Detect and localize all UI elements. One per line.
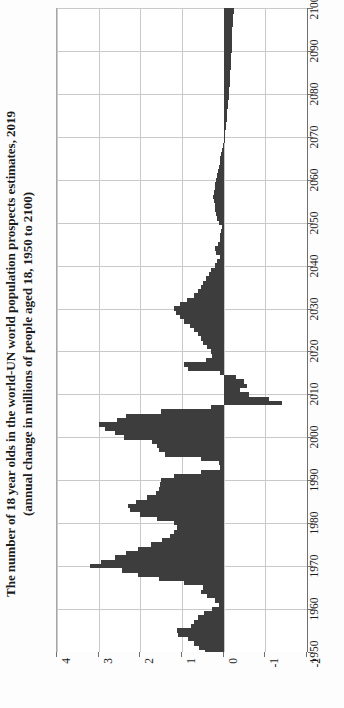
bar bbox=[160, 482, 223, 486]
bar bbox=[224, 49, 232, 53]
bar bbox=[222, 225, 224, 229]
bar bbox=[218, 242, 224, 246]
value-tick bbox=[56, 652, 57, 657]
chart-canvas: The number of 18 year olds in the world-… bbox=[0, 0, 344, 708]
bar bbox=[224, 100, 229, 104]
bar bbox=[217, 173, 224, 177]
bar bbox=[224, 384, 247, 388]
bar bbox=[214, 199, 224, 203]
bar bbox=[224, 44, 232, 48]
value-tick bbox=[139, 652, 140, 657]
bar bbox=[224, 79, 230, 83]
bar bbox=[215, 263, 224, 267]
bar bbox=[138, 573, 223, 577]
bar bbox=[161, 409, 224, 413]
year-tick-label: 2000 bbox=[309, 426, 321, 449]
bar bbox=[220, 371, 224, 375]
year-tick-label: 2060 bbox=[309, 169, 321, 192]
bar bbox=[220, 156, 223, 160]
bar bbox=[224, 66, 231, 70]
bar bbox=[214, 190, 224, 194]
year-gridline bbox=[57, 223, 307, 224]
bar bbox=[224, 401, 282, 405]
bar bbox=[211, 268, 224, 272]
bar bbox=[224, 375, 237, 379]
value-tick bbox=[306, 652, 307, 657]
bar bbox=[117, 418, 223, 422]
bar bbox=[152, 439, 224, 443]
bar bbox=[201, 590, 224, 594]
value-tick-label: 1 bbox=[186, 658, 198, 664]
year-axis: 1950196019701980199020002010202020302040… bbox=[308, 8, 344, 652]
bar bbox=[201, 336, 224, 340]
bar bbox=[138, 547, 223, 551]
bar bbox=[224, 105, 228, 109]
year-tick-label: 1960 bbox=[309, 598, 321, 621]
value-tick-label: 3 bbox=[103, 658, 115, 664]
bar bbox=[124, 435, 224, 439]
bar bbox=[115, 555, 223, 559]
bar bbox=[224, 392, 250, 396]
chart-subtitle: (annual change in millions of people age… bbox=[19, 4, 36, 704]
year-tick-label: 2050 bbox=[309, 212, 321, 235]
bar bbox=[219, 220, 224, 224]
bar bbox=[223, 143, 224, 147]
bar bbox=[224, 139, 225, 143]
bar bbox=[219, 461, 224, 465]
bar bbox=[224, 27, 233, 31]
bar bbox=[224, 40, 232, 44]
bar bbox=[204, 611, 224, 615]
bar bbox=[184, 362, 224, 366]
bar bbox=[224, 70, 231, 74]
bar bbox=[199, 646, 224, 650]
bar bbox=[178, 633, 224, 637]
bar bbox=[191, 624, 224, 628]
bar bbox=[207, 594, 224, 598]
bar bbox=[198, 332, 224, 336]
bar bbox=[201, 470, 224, 474]
bar bbox=[222, 148, 224, 152]
bar bbox=[218, 169, 224, 173]
bar bbox=[224, 8, 234, 10]
bar bbox=[194, 328, 224, 332]
year-gridline bbox=[57, 351, 307, 352]
value-gridline bbox=[57, 8, 58, 652]
value-tick bbox=[98, 652, 99, 657]
year-tick-label: 1970 bbox=[309, 555, 321, 578]
bar bbox=[207, 345, 224, 349]
plot-area bbox=[56, 8, 308, 652]
bar bbox=[174, 306, 224, 310]
bar bbox=[147, 495, 224, 499]
bar bbox=[177, 628, 224, 632]
bar bbox=[99, 422, 224, 426]
bar bbox=[220, 160, 224, 164]
bar bbox=[215, 182, 223, 186]
bar bbox=[217, 216, 224, 220]
year-tick-label: 2080 bbox=[309, 83, 321, 106]
bar bbox=[190, 324, 224, 328]
bar bbox=[212, 607, 224, 611]
bar bbox=[194, 293, 224, 297]
chart-title-block: The number of 18 year olds in the world-… bbox=[0, 0, 56, 708]
bar bbox=[209, 272, 224, 276]
year-tick-label: 2020 bbox=[309, 340, 321, 363]
bar bbox=[203, 341, 224, 345]
bar bbox=[224, 113, 227, 117]
bar bbox=[115, 431, 223, 435]
bar bbox=[224, 117, 227, 121]
bar bbox=[174, 474, 224, 478]
bar bbox=[159, 448, 224, 452]
bar bbox=[194, 620, 224, 624]
bar bbox=[105, 427, 224, 431]
bar bbox=[221, 152, 224, 156]
bar bbox=[224, 19, 233, 23]
bar bbox=[170, 534, 224, 538]
bar bbox=[151, 542, 224, 546]
bar bbox=[220, 465, 224, 469]
year-gridline bbox=[57, 51, 307, 52]
bar bbox=[224, 36, 232, 40]
bar bbox=[220, 233, 223, 237]
bar bbox=[224, 83, 230, 87]
value-tick bbox=[264, 652, 265, 657]
value-gridline bbox=[265, 8, 266, 652]
